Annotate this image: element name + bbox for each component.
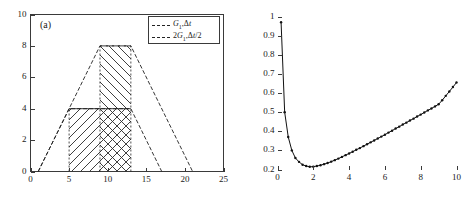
panel-b-ytick-label: 1 — [254, 12, 275, 21]
panel-b-ytick — [278, 131, 282, 132]
panel-b-ytick — [278, 150, 282, 151]
panel-b-ytick — [278, 55, 282, 56]
panel-b-xtick — [385, 166, 386, 170]
figure-container: (a) G1,Δt 2G1,Δt/2 02468100510152025 (b)… — [0, 0, 476, 208]
panel-b-ytick — [278, 36, 282, 37]
panel-b-ytick-label: 0.4 — [254, 126, 275, 135]
panel-b-xtick-label: 2 — [303, 173, 323, 182]
panel-b-ytick-label: 0.6 — [254, 88, 275, 97]
panel-b-ytick — [278, 170, 282, 171]
panel-b-xtick — [457, 166, 458, 170]
panel-b-xtick-label: 10 — [447, 173, 467, 182]
panel-b-ytick-label: 0.3 — [254, 145, 275, 154]
panel-b-plot-area — [0, 0, 476, 208]
panel-b-xtick — [349, 166, 350, 170]
panel-b-xtick-label: 8 — [411, 173, 431, 182]
panel-b-ytick — [278, 93, 282, 94]
panel-b-xtick-label: 6 — [375, 173, 395, 182]
panel-b-xtick-label: 0 — [268, 173, 288, 182]
panel-b-xtick — [313, 166, 314, 170]
panel-b-xtick-label: 4 — [339, 173, 359, 182]
panel-b-ytick — [278, 17, 282, 18]
panel-b-ytick — [278, 74, 282, 75]
panel-b-ytick-label: 0.7 — [254, 69, 275, 78]
panel-b: (b) 采样-空间—行的时间(ms) Δt(μs) 0.20.30.40.50.… — [238, 0, 476, 208]
panel-b-xtick — [278, 166, 279, 170]
panel-b-xtick — [421, 166, 422, 170]
panel-b-ytick-label: 0.9 — [254, 31, 275, 40]
panel-b-ytick-label: 0.8 — [254, 50, 275, 59]
panel-b-ytick-label: 0.5 — [254, 107, 275, 116]
panel-b-ytick — [278, 112, 282, 113]
